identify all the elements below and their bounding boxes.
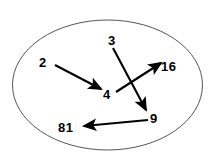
node-label-3: 3 [108,34,116,47]
node-label-81: 81 [58,121,73,134]
node-label-9: 9 [150,112,158,125]
node-label-16: 16 [161,60,176,73]
arrow-2-to-4 [55,65,101,89]
node-label-2: 2 [39,56,47,69]
arrow-3-to-9 [113,48,146,110]
diagram-graphics [0,0,215,164]
arrow-9-to-81 [84,120,148,126]
diagram-canvas: 2 3 4 16 9 81 [0,0,215,164]
node-label-4: 4 [103,88,111,101]
